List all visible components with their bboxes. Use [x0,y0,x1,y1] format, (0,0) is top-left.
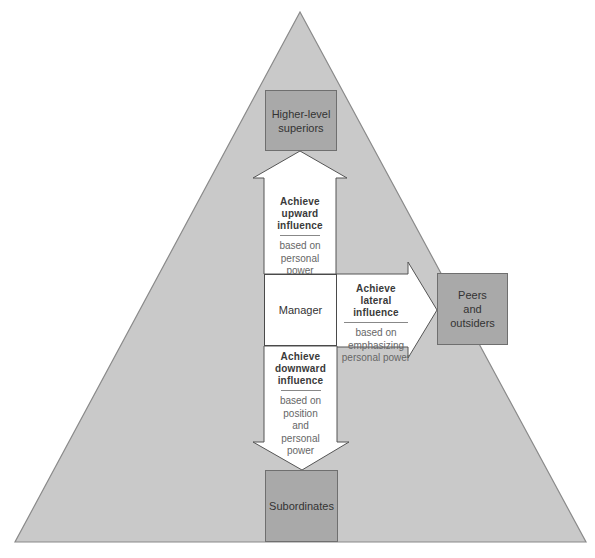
peers-label-line-3: outsiders [450,316,495,330]
lateral-title-line-1: Achieve [338,283,414,295]
downward-basis-line-1: based on [264,395,337,408]
peers-label-line-2: and [450,302,495,316]
upward-title-line-2: upward [264,208,336,220]
upward-divider [280,235,320,236]
upward-basis-line-1: based on [264,240,336,253]
lateral-basis-line-2: emphasizing [338,340,414,353]
peers-and-outsiders-box: Peers and outsiders [437,273,508,345]
manager-label: Manager [279,303,322,317]
lateral-basis-line-3: personal power [338,352,414,365]
downward-basis-line-5: power [264,445,337,458]
lateral-basis-line-1: based on [338,327,414,340]
lateral-divider [344,322,408,323]
downward-basis-line-4: personal [264,433,337,446]
subordinates-label: Subordinates [269,499,334,513]
downward-basis-line-2: position [264,408,337,421]
downward-title-line-3: influence [264,375,337,387]
subordinates-box: Subordinates [265,470,338,542]
upward-title-line-3: influence [264,220,336,232]
peers-label-line-1: Peers [450,288,495,302]
higher-level-superiors-box: Higher-level superiors [265,90,337,151]
upward-basis-line-2: personal [264,253,336,266]
lateral-arrow-label: Achieve lateral influence based on empha… [338,283,414,365]
superiors-label-line-1: Higher-level [272,107,331,121]
downward-divider [281,390,321,391]
lateral-title-line-2: lateral influence [338,295,414,319]
upward-title-line-1: Achieve [264,196,336,208]
superiors-label-line-2: superiors [272,121,331,135]
downward-basis-line-3: and [264,420,337,433]
manager-box: Manager [264,274,337,346]
downward-title-line-2: downward [264,363,337,375]
downward-title-line-1: Achieve [264,351,337,363]
downward-arrow-label: Achieve downward influence based on posi… [264,351,337,458]
upward-arrow-label: Achieve upward influence based on person… [264,196,336,278]
